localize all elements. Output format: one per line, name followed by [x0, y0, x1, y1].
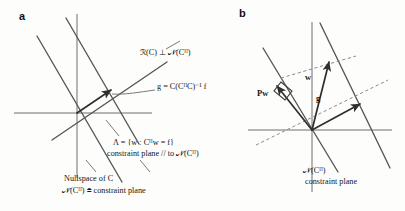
- panel-b-g-vector-label: g: [316, 93, 320, 104]
- panel-a-range-perp-nullspace-label: ℛ(C) ⊥ 𝒩(Cᴴ): [140, 48, 191, 58]
- panel-b-w-vector-label: w: [305, 72, 311, 83]
- panel-b-nullspace-line: [263, 48, 338, 172]
- panel-b-vector-pw: [277, 86, 312, 130]
- panel-a-nullspace-line: [37, 36, 122, 182]
- panel-a-constraint-parallel-label: constraint plane // to 𝒩(Cᴴ): [107, 149, 199, 159]
- panel-a-nullspace-leader-line: [86, 160, 96, 172]
- panel-a-g-equation-label: g = C(CᴴC)⁻¹ f: [157, 82, 206, 92]
- panel-a-g-leader-line: [112, 90, 155, 94]
- panel-a-lambda-set-label: Λ = {w : Cᴴw = f}: [113, 138, 174, 148]
- panel-b-constraint-plane-label: constraint plane: [305, 177, 357, 187]
- panel-a-letter: a: [19, 10, 25, 22]
- panel-b-vector-g: [312, 104, 360, 130]
- figure-canvas: a ℛ(C) ⊥ 𝒩(Cᴴ) g = C(CᴴC)⁻¹ f Λ = {w : C…: [0, 0, 405, 211]
- panel-a-nullspace-of-c-label: Nullspace of C: [64, 174, 113, 184]
- panel-a-constraint-caption-leader-line: [140, 160, 150, 172]
- panel-a-lambda-leader-line: [106, 120, 119, 136]
- panel-b-vector-w: [312, 62, 329, 130]
- panel-b-constraint-plane-line: [320, 23, 390, 168]
- panel-a-range-space-line: [52, 62, 167, 140]
- panel-b-null-ch-label: 𝒩(Cᴴ): [303, 166, 326, 176]
- panel-a-null-ch-definition-label: 𝒩(Cᴴ) ≜ constraint plane: [62, 186, 146, 196]
- panel-b-letter: b: [239, 7, 246, 19]
- panel-a-vector-g: [77, 90, 111, 113]
- panel-b-projection-vector-label: Pw: [257, 88, 268, 99]
